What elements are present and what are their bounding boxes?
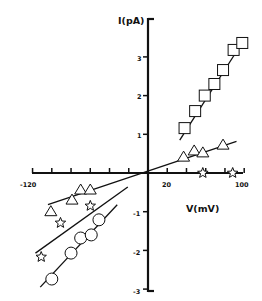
square-marker <box>237 37 248 48</box>
triangle-marker <box>178 151 190 161</box>
iv-curve-chart: I(pA) V(mV) -120 20 100 3 2 1 -1 -2 -3 <box>0 0 262 301</box>
star-marker <box>36 252 46 262</box>
triangle-marker <box>45 206 57 216</box>
y-tick-label-neg2: -2 <box>133 249 140 257</box>
square-marker <box>199 90 210 101</box>
square-marker <box>218 65 229 76</box>
x-tick-label-20: 20 <box>162 181 172 189</box>
circle-marker <box>93 214 105 226</box>
x-axis-label: V(mV) <box>186 203 219 214</box>
x-tick-label-100: 100 <box>235 181 249 189</box>
square-marker <box>179 123 190 134</box>
star-marker <box>227 168 238 178</box>
circle-marker <box>85 229 97 241</box>
y-tick-label-neg1: -1 <box>133 210 141 218</box>
circle-marker <box>65 247 77 259</box>
y-tick-label-1: 1 <box>137 132 142 140</box>
circle-marker <box>46 273 58 285</box>
y-tick-label-neg3: -3 <box>133 288 140 296</box>
star-marker <box>198 168 209 178</box>
y-tick-label-2: 2 <box>137 93 142 101</box>
x-tick-label-neg120: -120 <box>20 181 37 189</box>
square-marker <box>209 78 220 89</box>
y-axis-label: I(pA) <box>118 15 144 26</box>
y-tick-label-3: 3 <box>137 55 142 63</box>
square-marker <box>190 106 201 117</box>
star-marker <box>85 200 96 210</box>
data-markers <box>36 37 248 285</box>
star-marker <box>55 217 65 227</box>
